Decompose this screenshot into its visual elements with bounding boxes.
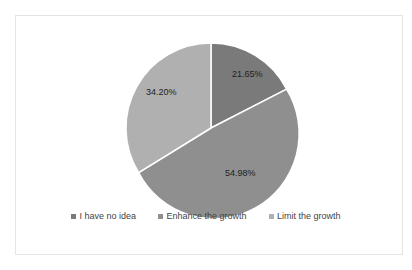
data-label-i-have-no-idea: 21.65%: [232, 69, 263, 79]
legend-label: Enhance the growth: [166, 211, 246, 221]
legend: I have no idea Enhance the growth Limit …: [0, 211, 412, 221]
pie-chart: [0, 0, 412, 270]
legend-label: Limit the growth: [277, 211, 341, 221]
legend-swatch-icon: [71, 214, 76, 219]
legend-swatch-icon: [269, 214, 274, 219]
data-label-limit-the-growth: 34.20%: [146, 87, 177, 97]
legend-item-limit-the-growth: Limit the growth: [269, 211, 341, 221]
data-label-enhance-the-growth: 54.98%: [225, 168, 256, 178]
legend-item-enhance-the-growth: Enhance the growth: [158, 211, 246, 221]
legend-swatch-icon: [158, 214, 163, 219]
legend-item-i-have-no-idea: I have no idea: [71, 211, 136, 221]
legend-label: I have no idea: [79, 211, 136, 221]
